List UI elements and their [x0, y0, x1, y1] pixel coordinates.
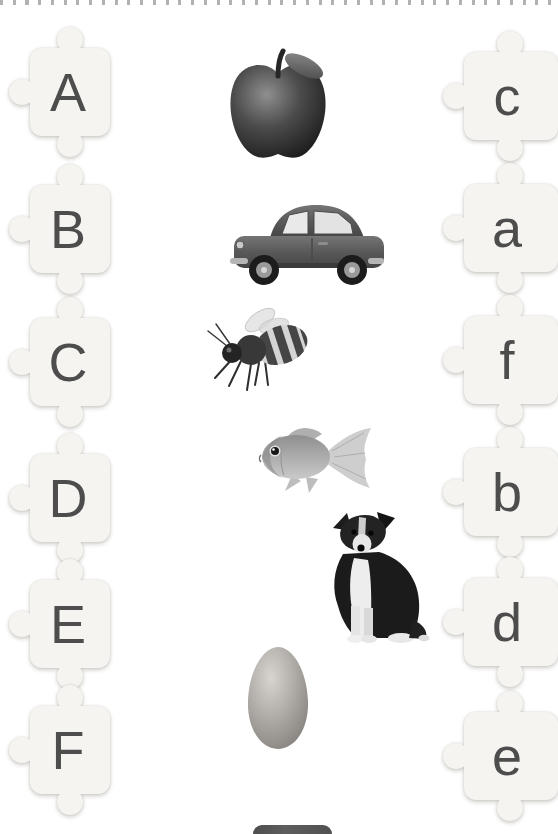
puzzle-piece-upper-A[interactable]: A: [6, 22, 118, 162]
uppercase-letter: F: [40, 723, 85, 777]
picture-apple[interactable]: [222, 46, 334, 172]
puzzle-piece-lower-d[interactable]: d: [440, 552, 558, 692]
puzzle-piece-upper-B[interactable]: B: [6, 159, 118, 299]
uppercase-letter: D: [37, 471, 88, 525]
dog-image: [313, 508, 431, 654]
uppercase-letter: B: [38, 202, 86, 256]
picture-car[interactable]: [226, 192, 388, 296]
puzzle-piece-upper-E[interactable]: E: [6, 554, 118, 694]
bee-image: [203, 303, 318, 398]
fish-image: [248, 413, 376, 507]
puzzle-piece-lower-e[interactable]: e: [440, 686, 558, 826]
egg-image: [241, 643, 315, 753]
puzzle-piece-lower-f[interactable]: f: [440, 290, 558, 430]
lowercase-letter: a: [476, 201, 522, 255]
lowercase-letter: d: [476, 595, 522, 649]
uppercase-letter: C: [37, 335, 88, 389]
lowercase-letter: b: [476, 465, 522, 519]
picture-egg[interactable]: [241, 643, 315, 757]
picture-dog[interactable]: [313, 508, 431, 658]
uppercase-letter: E: [38, 597, 86, 651]
puzzle-piece-upper-F[interactable]: F: [6, 680, 118, 820]
picture-bee[interactable]: [203, 303, 318, 402]
apple-image: [222, 46, 334, 168]
puzzle-piece-lower-b[interactable]: b: [440, 422, 558, 562]
puzzle-piece-upper-D[interactable]: D: [6, 428, 118, 568]
puzzle-piece-upper-C[interactable]: C: [6, 292, 118, 432]
lowercase-letter: f: [483, 333, 514, 387]
puzzle-piece-lower-c[interactable]: c: [440, 26, 558, 166]
car-image: [226, 192, 388, 292]
lowercase-letter: e: [476, 729, 522, 783]
uppercase-letter: A: [38, 65, 86, 119]
lowercase-letter: c: [478, 69, 521, 123]
puzzle-piece-lower-a[interactable]: a: [440, 158, 558, 298]
cutoff-object: [253, 825, 332, 834]
perforated-edge: [0, 0, 558, 5]
worksheet-page: A B C: [0, 0, 558, 834]
picture-fish[interactable]: [248, 413, 376, 511]
